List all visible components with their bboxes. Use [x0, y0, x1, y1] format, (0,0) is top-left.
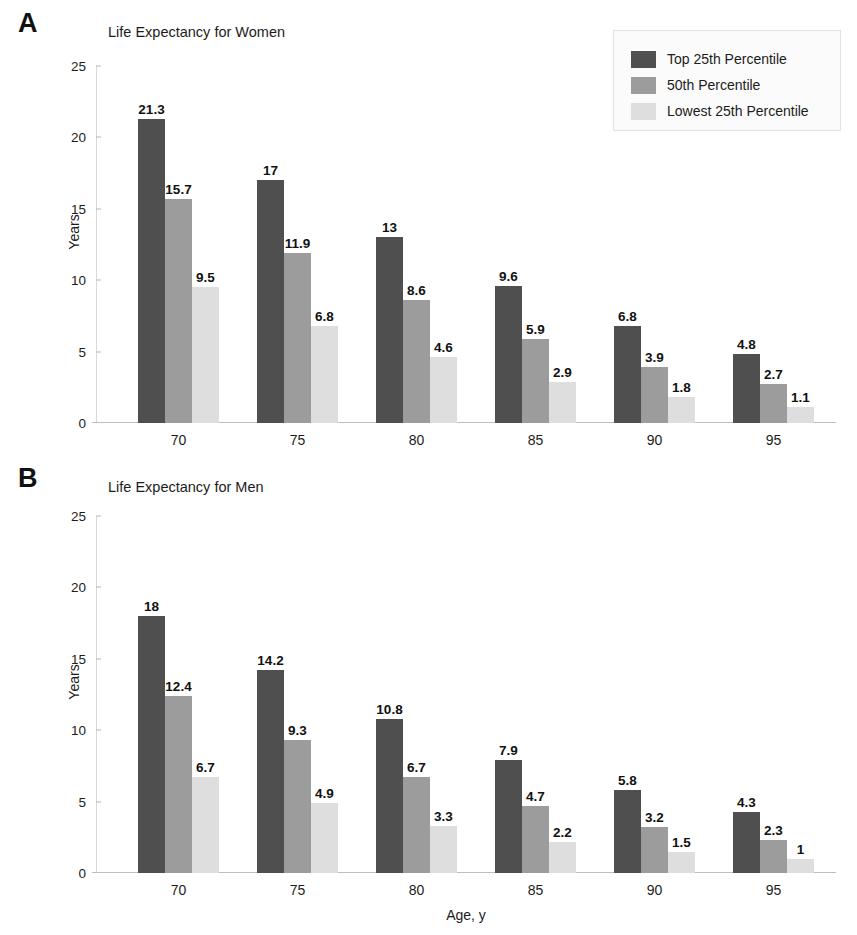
bar-rect [284, 740, 311, 873]
bar[interactable]: 9.3 [284, 740, 311, 873]
bar[interactable]: 14.2 [257, 670, 284, 873]
bar-value-label: 14.2 [257, 653, 283, 668]
bar[interactable]: 4.9 [311, 803, 338, 873]
bar[interactable]: 6.7 [403, 777, 430, 873]
bar-group: 14.29.34.975 [257, 516, 338, 873]
y-axis-tick-mark [96, 280, 101, 281]
bar-value-label: 9.5 [196, 270, 215, 285]
bar[interactable]: 8.6 [403, 300, 430, 423]
bar-value-label: 1.1 [791, 390, 810, 405]
bar[interactable]: 6.8 [614, 326, 641, 423]
legend-label: Lowest 25th Percentile [667, 103, 809, 119]
bar-rect [760, 840, 787, 873]
bar-value-label: 6.8 [315, 309, 334, 324]
bar[interactable]: 2.3 [760, 840, 787, 873]
bar-value-label: 12.4 [165, 679, 191, 694]
y-axis-tick-label: 15 [40, 201, 86, 216]
bar[interactable]: 15.7 [165, 199, 192, 423]
bar[interactable]: 3.9 [641, 367, 668, 423]
bar[interactable]: 6.8 [311, 326, 338, 423]
bar-group: 9.65.92.985 [495, 66, 576, 423]
bar-group: 10.86.73.380 [376, 516, 457, 873]
bar-rect [284, 253, 311, 423]
bar-rect [403, 300, 430, 423]
y-axis-tick-label: 15 [40, 651, 86, 666]
x-axis-tick-label: 90 [647, 432, 663, 448]
bar-value-label: 1 [797, 842, 805, 857]
bar-value-label: 4.7 [526, 789, 545, 804]
bar-value-label: 4.8 [737, 337, 756, 352]
bar-value-label: 8.6 [407, 283, 426, 298]
bar[interactable]: 1.5 [668, 852, 695, 873]
x-axis-tick-label: 70 [171, 882, 187, 898]
bar[interactable]: 7.9 [495, 760, 522, 873]
y-axis-tick-label: 25 [40, 509, 86, 524]
bar-value-label: 10.8 [376, 702, 402, 717]
y-axis-tick-label: 0 [40, 866, 86, 881]
bar-value-label: 2.9 [553, 365, 572, 380]
bar[interactable]: 3.2 [641, 827, 668, 873]
bar[interactable]: 4.8 [733, 354, 760, 423]
bar[interactable]: 4.7 [522, 806, 549, 873]
legend-item-50th: 50th Percentile [631, 74, 760, 96]
plot-area-men: Years Age, y 05101520251812.46.77014.29.… [96, 516, 836, 873]
bar-rect [733, 354, 760, 423]
bar-value-label: 2.2 [553, 825, 572, 840]
bar-rect [138, 616, 165, 873]
x-axis-tick-label: 75 [290, 432, 306, 448]
bar-value-label: 3.9 [645, 350, 664, 365]
x-axis-tick-label: 80 [409, 882, 425, 898]
bar-rect [522, 806, 549, 873]
bar[interactable]: 12.4 [165, 696, 192, 873]
bar[interactable]: 4.6 [430, 357, 457, 423]
x-axis-tick-label: 85 [528, 432, 544, 448]
bar-group: 1711.96.875 [257, 66, 338, 423]
bar[interactable]: 11.9 [284, 253, 311, 423]
x-axis-tick-label: 75 [290, 882, 306, 898]
bar-value-label: 15.7 [165, 182, 191, 197]
y-axis-tick-mark [96, 137, 101, 138]
legend-item-lowest-25th: Lowest 25th Percentile [631, 100, 809, 122]
bar[interactable]: 9.5 [192, 287, 219, 423]
bar-group: 5.83.21.590 [614, 516, 695, 873]
bar-rect [641, 827, 668, 873]
bar-rect [192, 777, 219, 873]
bar[interactable]: 1 [787, 859, 814, 873]
bar[interactable]: 21.3 [138, 119, 165, 423]
bar-rect [165, 199, 192, 423]
bar[interactable]: 2.9 [549, 382, 576, 423]
bar-value-label: 17 [263, 163, 278, 178]
bar[interactable]: 3.3 [430, 826, 457, 873]
bar-group: 21.315.79.570 [138, 66, 219, 423]
bar-rect [522, 339, 549, 423]
bar-rect [614, 326, 641, 423]
bar[interactable]: 2.2 [549, 842, 576, 873]
bar-rect [549, 382, 576, 423]
bar[interactable]: 4.3 [733, 812, 760, 873]
legend-swatch-icon [631, 77, 656, 94]
bar[interactable]: 10.8 [376, 719, 403, 873]
bar-rect [403, 777, 430, 873]
bar-rect [376, 719, 403, 873]
legend-label: Top 25th Percentile [667, 51, 787, 67]
bar[interactable]: 17 [257, 180, 284, 423]
bar-value-label: 2.7 [764, 367, 783, 382]
bar[interactable]: 5.8 [614, 790, 641, 873]
y-axis-tick-label: 5 [40, 344, 86, 359]
bar-rect [138, 119, 165, 423]
bar-value-label: 7.9 [499, 743, 518, 758]
bar[interactable]: 5.9 [522, 339, 549, 423]
bar[interactable]: 1.1 [787, 407, 814, 423]
y-axis-tick-mark [96, 587, 101, 588]
bar-rect [549, 842, 576, 873]
bar[interactable]: 13 [376, 237, 403, 423]
bar[interactable]: 9.6 [495, 286, 522, 423]
bar[interactable]: 2.7 [760, 384, 787, 423]
bar-rect [430, 357, 457, 423]
bar[interactable]: 18 [138, 616, 165, 873]
bar-group: 1812.46.770 [138, 516, 219, 873]
bar-rect [668, 852, 695, 873]
bar[interactable]: 6.7 [192, 777, 219, 873]
bar[interactable]: 1.8 [668, 397, 695, 423]
y-axis-tick-label: 20 [40, 580, 86, 595]
